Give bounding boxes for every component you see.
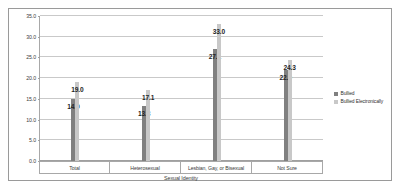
bar[interactable]: 33.0 <box>217 24 221 161</box>
legend-item[interactable]: Bullied Electronically <box>334 99 392 104</box>
legend-swatch-icon <box>334 100 338 104</box>
bar[interactable]: 19.0 <box>75 82 79 161</box>
y-tick-label: 10.0 <box>26 117 36 123</box>
bar-group: 22.024.3 <box>252 16 323 161</box>
bar-value-label: 17.1 <box>142 94 154 101</box>
category-label: Lesbian, Gay, or Bisexual <box>181 162 252 173</box>
plot-inner: 0.05.010.015.020.025.030.035.0 14.919.01… <box>39 16 323 161</box>
bars-layer: 14.919.013.317.127.133.022.024.3 <box>40 16 323 161</box>
category-label: Total <box>39 162 110 173</box>
bar-value-label: 24.3 <box>284 64 296 71</box>
y-tick-label: 30.0 <box>26 34 36 40</box>
y-tick-label: 5.0 <box>29 137 36 143</box>
category-label: Not Sure <box>252 162 323 173</box>
x-axis-title: Sexual Identity <box>39 175 323 181</box>
category-label: Heterosexual <box>110 162 181 173</box>
legend-swatch-icon <box>334 92 338 96</box>
bar-group: 14.919.0 <box>40 16 111 161</box>
category-axis: TotalHeterosexualLesbian, Gay, or Bisexu… <box>39 161 323 174</box>
bar-group: 27.133.0 <box>182 16 253 161</box>
legend-label: Bullied Electronically <box>341 99 384 104</box>
bar-group: 13.317.1 <box>111 16 182 161</box>
y-tick-label: 35.0 <box>26 13 36 19</box>
chart-legend: BulliedBullied Electronically <box>334 91 392 107</box>
y-tick-label: 0.0 <box>29 158 36 164</box>
y-tick-label: 25.0 <box>26 54 36 60</box>
plot-area: 0.05.010.015.020.025.030.035.0 14.919.01… <box>39 16 323 161</box>
bar-value-label: 33.0 <box>213 28 225 35</box>
chart-frame: 0.05.010.015.020.025.030.035.0 14.919.01… <box>8 8 392 181</box>
y-tick-label: 20.0 <box>26 75 36 81</box>
legend-item[interactable]: Bullied <box>334 91 392 96</box>
bar-value-label: 19.0 <box>71 86 83 93</box>
bar[interactable]: 17.1 <box>146 90 150 161</box>
bar[interactable]: 24.3 <box>288 60 292 161</box>
legend-label: Bullied <box>341 91 355 96</box>
y-tick-label: 15.0 <box>26 96 36 102</box>
